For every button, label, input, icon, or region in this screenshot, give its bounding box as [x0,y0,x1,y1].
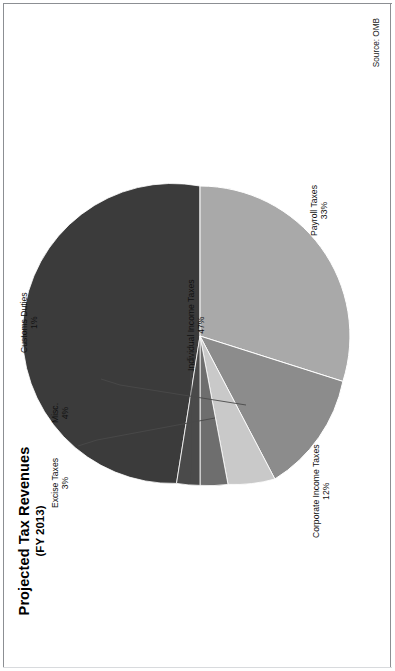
pie-label-misc-percent: 4% [60,403,70,423]
pie-label-corporate-income-taxes: Corporate Income Taxes 12% [311,445,331,538]
pie-label-misc-name: Misc. [50,403,60,423]
chart-page: Projected Tax Revenues (FY 2013) [0,0,395,671]
pie-label-individual-income-taxes-name: Individual Income Taxes [186,279,196,371]
pie-label-excise-taxes: Excise Taxes 3% [50,458,70,508]
chart-canvas: Projected Tax Revenues (FY 2013) [0,0,395,671]
rotated-chart-container: Projected Tax Revenues (FY 2013) [0,0,395,671]
source-attribution: Source: OMB [372,18,381,67]
pie-label-corporate-income-taxes-percent: 12% [321,445,331,538]
pie-label-individual-income-taxes: Individual Income Taxes 47% [186,279,206,371]
pie-chart: Individual Income Taxes 47% Payroll Taxe… [0,0,395,671]
pie-label-payroll-taxes: Payroll Taxes 33% [309,185,329,236]
pie-label-misc: Misc. 4% [50,403,70,423]
pie-label-customs-duties: Customs Duties 1% [19,292,39,353]
pie-label-individual-income-taxes-percent: 47% [196,279,206,371]
pie-label-payroll-taxes-percent: 33% [319,185,329,236]
pie-label-excise-taxes-percent: 3% [60,458,70,508]
pie-label-excise-taxes-name: Excise Taxes [50,458,60,508]
pie-label-payroll-taxes-name: Payroll Taxes [309,185,319,236]
pie-label-customs-duties-name: Customs Duties [19,292,29,353]
pie-slice-individual-income-taxes[interactable] [22,183,200,483]
pie-label-customs-duties-percent: 1% [29,292,39,353]
pie-label-corporate-income-taxes-name: Corporate Income Taxes [311,445,321,538]
